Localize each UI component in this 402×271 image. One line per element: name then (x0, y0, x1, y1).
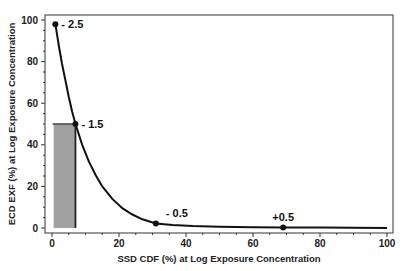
point-label: - 0.5 (166, 207, 188, 219)
y-tick-label: 100 (21, 15, 38, 26)
data-point (153, 220, 159, 226)
shaded-rect (54, 124, 76, 228)
point-label: - 1.5 (81, 118, 103, 130)
x-tick-label: 20 (113, 238, 125, 249)
x-axis-title: SSD CDF (%) at Log Exposure Concentratio… (117, 253, 320, 264)
x-tick-label: 80 (314, 238, 326, 249)
shaded-region (53, 124, 76, 228)
y-tick-label: 0 (32, 223, 38, 234)
y-tick-label: 40 (27, 139, 39, 150)
data-point (280, 224, 286, 230)
y-axis: 020406080100 (21, 15, 45, 234)
chart-canvas: 020406080100 020406080100 - 2.5- 1.5- 0.… (0, 0, 402, 271)
x-tick-label: 40 (180, 238, 192, 249)
data-point (52, 21, 58, 27)
point-label: - 2.5 (61, 18, 83, 30)
data-point (72, 121, 78, 127)
x-tick-label: 60 (247, 238, 259, 249)
x-axis: 020406080100 (49, 233, 396, 249)
x-tick-label: 100 (379, 238, 396, 249)
point-label: +0.5 (272, 211, 294, 223)
y-tick-label: 20 (27, 181, 39, 192)
y-tick-label: 80 (27, 56, 39, 67)
y-tick-label: 60 (27, 98, 39, 109)
x-tick-label: 0 (49, 238, 55, 249)
y-axis-title: ECD EXF (%) at Log Exposure Concentratio… (6, 22, 17, 225)
partial-title (100, 0, 315, 2)
